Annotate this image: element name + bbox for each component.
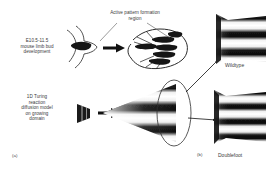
wildtype-panel-graphic (214, 12, 268, 66)
caption-b: (b) (197, 152, 202, 157)
turing-seed-icon (77, 104, 90, 123)
limb-row-label: E10.5-11.5 mouse limb bud development (6, 38, 68, 55)
turing-row-label: 1D Turing reaction diffusion model on gr… (6, 94, 68, 122)
figure-graphics (0, 0, 274, 171)
turing-growing-domain-pattern (100, 80, 191, 146)
doublefoot-panel-label: Doublefoot (218, 152, 242, 158)
caption-a: (a) (12, 153, 17, 158)
arrow-to-doublefoot (188, 118, 216, 120)
autopod-paw-icon (128, 29, 187, 69)
wildtype-panel-label: Wildtype (225, 62, 244, 68)
arrow-to-wildtype (186, 60, 218, 92)
figure-panel: E10.5-11.5 mouse limb bud development 1D… (0, 0, 274, 171)
row1-transition-arrow (103, 44, 125, 53)
active-region-annotation: Active pattern formation region (92, 10, 178, 21)
limb-bud-early-icon (67, 26, 97, 68)
doublefoot-panel-graphic (212, 88, 268, 146)
